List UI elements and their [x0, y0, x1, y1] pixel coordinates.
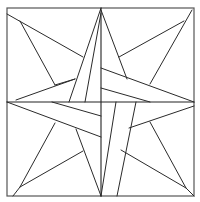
quadrant-top-right — [101, 10, 194, 102]
quadrant-bottom-left — [7, 102, 101, 196]
quadrant-top-left — [7, 8, 101, 102]
star-block-drawing — [0, 0, 200, 202]
quilt-block-diagram — [0, 0, 200, 202]
quadrant-bottom-right — [101, 102, 194, 196]
